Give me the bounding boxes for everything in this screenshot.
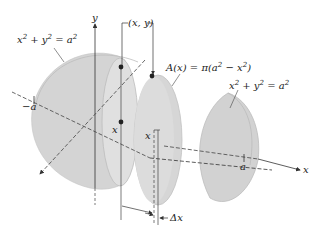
circle-equation-left: x2 + y2 = a2 — [17, 34, 77, 45]
sphere-slicing-diagram: y x −a a (x, y) x x Δx x2 + y2 = a2 x2 +… — [0, 0, 320, 239]
x-axis-label: x — [303, 165, 309, 175]
neg-a-label: −a — [22, 102, 36, 112]
y-axis-label: y — [92, 13, 98, 23]
delta-x-label: Δx — [170, 213, 183, 223]
circle-equation-right: x2 + y2 = a2 — [229, 80, 289, 91]
x-axis — [258, 159, 300, 170]
x-marker-label-2: x — [145, 131, 151, 141]
hemisphere-cap — [200, 93, 259, 202]
pos-a-label: a — [240, 162, 246, 172]
area-formula: A(x) = π(a2 − x2) — [166, 62, 251, 73]
point-label: (x, y) — [128, 18, 153, 28]
x-marker-label-1: x — [112, 125, 118, 135]
